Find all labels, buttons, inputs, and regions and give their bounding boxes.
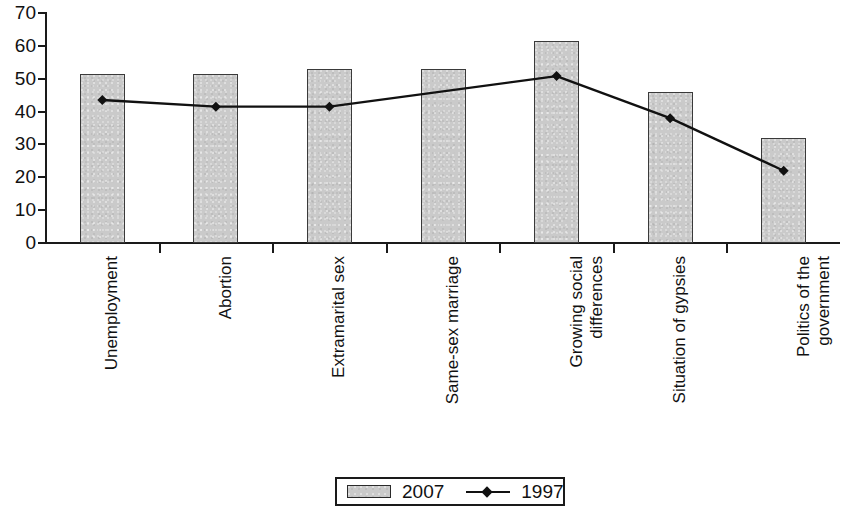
y-axis-tick-label: 40 <box>4 102 36 121</box>
bar-6 <box>648 92 693 243</box>
x-axis-category-label-5: Growing social differences <box>567 256 607 456</box>
bar-3 <box>307 69 352 243</box>
y-axis-tick-label: 10 <box>4 200 36 219</box>
x-axis-tick <box>386 243 388 253</box>
y-axis-tick-label: 60 <box>4 36 36 55</box>
x-axis-category-label-2: Abortion <box>216 256 236 456</box>
y-axis-tick-label: 0 <box>4 233 36 252</box>
x-axis-category-label-1: Unemployment <box>102 256 122 456</box>
bar-1 <box>80 74 125 243</box>
legend-swatch-icon <box>347 485 391 498</box>
legend-line-diamond-icon <box>466 485 510 498</box>
x-axis-tick <box>272 243 274 253</box>
chart-container: 010203040506070 UnemploymentAbortionExtr… <box>0 0 844 506</box>
bars-layer <box>45 13 840 243</box>
legend-label-1997: 1997 <box>521 482 563 501</box>
x-axis-tick <box>159 243 161 253</box>
legend-entry-1997: 1997 <box>466 482 563 501</box>
bar-7 <box>761 138 806 243</box>
bar-2 <box>193 74 238 243</box>
y-axis-tick-label: 50 <box>4 69 36 88</box>
x-axis-category-label-6: Situation of gypsies <box>670 256 690 456</box>
y-axis-tick-label: 70 <box>4 3 36 22</box>
bar-5 <box>534 41 579 243</box>
x-axis-tick <box>613 243 615 253</box>
chart-legend: 2007 1997 <box>335 477 565 506</box>
x-axis-category-label-7: Politics of the government <box>794 256 834 456</box>
y-axis-tick-label: 30 <box>4 134 36 153</box>
x-axis-tick <box>726 243 728 253</box>
x-axis-category-label-4: Same-sex marriage <box>443 256 463 456</box>
y-axis-tick-label: 20 <box>4 167 36 186</box>
legend-entry-2007: 2007 <box>347 482 444 501</box>
bar-4 <box>421 69 466 243</box>
x-axis-category-label-3: Extramarital sex <box>329 256 349 456</box>
x-axis-tick <box>499 243 501 253</box>
legend-label-2007: 2007 <box>402 482 444 501</box>
